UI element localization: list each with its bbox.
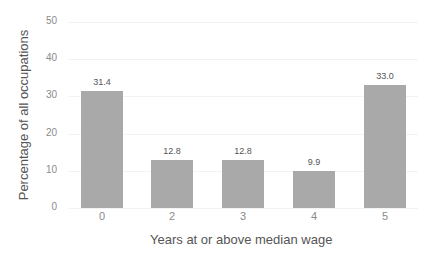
bar-value-label: 33.0	[355, 71, 415, 81]
x-tick-label: 0	[82, 210, 122, 222]
x-tick-label: 3	[223, 210, 263, 222]
y-tick-label: 50	[27, 15, 57, 26]
bar-value-label: 12.8	[142, 146, 202, 156]
bar-value-label: 12.8	[213, 146, 273, 156]
bar-5	[364, 85, 406, 208]
x-tick-label: 5	[365, 210, 405, 222]
bar-2	[151, 160, 193, 208]
bar-value-label: 31.4	[72, 77, 132, 87]
y-tick-label: 40	[27, 52, 57, 63]
x-tick-label: 2	[152, 210, 192, 222]
bar-3	[222, 160, 264, 208]
x-tick-label: 4	[294, 210, 334, 222]
x-axis-label: Years at or above median wage	[150, 232, 332, 247]
y-axis-label: Percentage of all occupations	[16, 30, 31, 201]
gridline	[68, 59, 418, 60]
gridline	[68, 208, 418, 209]
bar-chart: 01020304050 31.412.812.89.933.0 02345 Pe…	[0, 0, 427, 256]
y-tick-label: 30	[27, 89, 57, 100]
gridline	[68, 22, 418, 23]
bar-0	[81, 91, 123, 208]
y-tick-label: 0	[27, 201, 57, 212]
bar-4	[293, 171, 335, 208]
y-tick-label: 10	[27, 164, 57, 175]
bar-value-label: 9.9	[284, 157, 344, 167]
y-tick-label: 20	[27, 127, 57, 138]
